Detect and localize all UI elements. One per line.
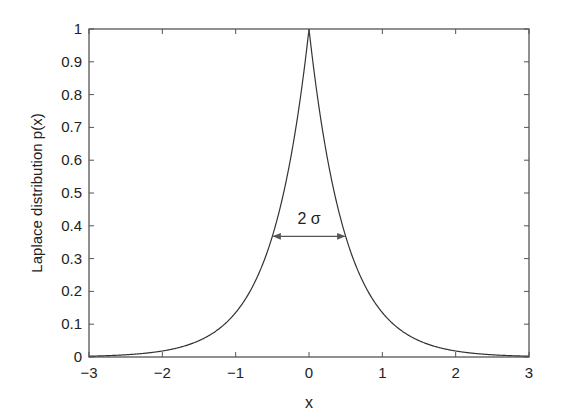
plot-area [89, 29, 529, 357]
y-tick-label: 0.9 [61, 53, 82, 70]
x-tick-label: 0 [305, 364, 313, 381]
y-tick-label: 1 [74, 20, 82, 37]
y-tick-label: 0 [74, 348, 82, 365]
x-tick-label: 3 [525, 364, 533, 381]
y-tick-label: 0.8 [61, 86, 82, 103]
y-tick-label: 0.4 [61, 217, 82, 234]
x-tick-label: 1 [378, 364, 386, 381]
x-tick-label: 2 [451, 364, 459, 381]
y-axis-label: Laplace distribution p(x) [28, 113, 45, 272]
x-tick-label: −2 [154, 364, 171, 381]
y-axis-ticks: 00.10.20.30.40.50.60.70.80.91 [61, 20, 529, 365]
distribution-curve [89, 29, 529, 356]
axes-box [89, 29, 529, 357]
y-tick-label: 0.6 [61, 151, 82, 168]
x-tick-label: −3 [80, 364, 97, 381]
annotation-label: 2 σ [297, 210, 320, 227]
y-tick-label: 0.1 [61, 315, 82, 332]
x-axis-ticks: −3−2−10123 [80, 29, 533, 381]
y-tick-label: 0.3 [61, 250, 82, 267]
laplace-chart: 2 σ −3−2−10123 00.10.20.30.40.50.60.70.8… [0, 0, 561, 418]
sigma-annotation: 2 σ [273, 210, 344, 236]
y-tick-label: 0.2 [61, 282, 82, 299]
y-tick-label: 0.5 [61, 184, 82, 201]
x-tick-label: −1 [227, 364, 244, 381]
x-axis-label: x [305, 394, 313, 411]
laplace-curve [89, 29, 529, 356]
y-tick-label: 0.7 [61, 118, 82, 135]
